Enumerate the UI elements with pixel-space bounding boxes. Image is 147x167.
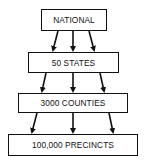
node-label: 50 STATES (52, 58, 95, 68)
arrow-national-states-left (53, 31, 58, 50)
node-national: NATIONAL (41, 9, 107, 31)
arrow-states-counties-left (42, 73, 46, 91)
node-label: NATIONAL (53, 15, 95, 25)
arrow-states-counties-right (100, 73, 104, 91)
arrow-national-states-right (89, 31, 94, 50)
node-precincts: 100,000 PRECINCTS (8, 134, 138, 156)
node-label: 3000 COUNTIES (41, 98, 106, 108)
arrow-counties-precincts-left (32, 113, 37, 132)
node-counties: 3000 COUNTIES (18, 93, 128, 113)
node-label: 100,000 PRECINCTS (32, 140, 114, 150)
arrow-counties-precincts-right (109, 113, 113, 132)
node-states: 50 STATES (28, 52, 119, 73)
